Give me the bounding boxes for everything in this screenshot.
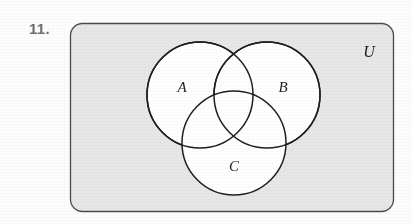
set-label-c: C (229, 158, 240, 174)
set-circle-c (182, 91, 286, 195)
venn-diagram: U A B C (0, 0, 412, 224)
set-label-a: A (176, 79, 187, 95)
figure-canvas: 11. U A B C (0, 0, 412, 224)
universe-label: U (363, 43, 376, 60)
set-label-b: B (278, 79, 287, 95)
